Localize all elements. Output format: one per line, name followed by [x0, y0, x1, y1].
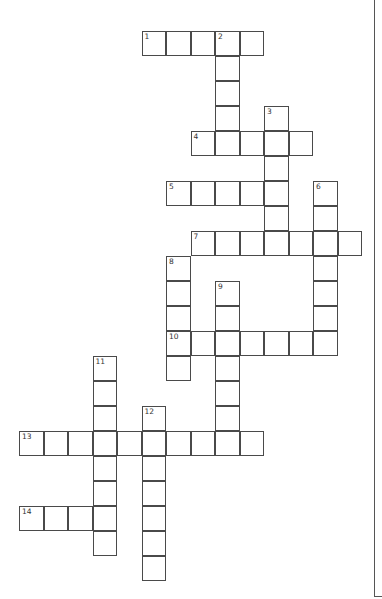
crossword-cell[interactable]: 9 — [215, 281, 240, 306]
crossword-cell[interactable]: 1 — [142, 31, 167, 56]
crossword-cell[interactable]: 7 — [191, 231, 216, 256]
clue-number: 1 — [145, 32, 150, 41]
crossword-cell[interactable] — [240, 231, 265, 256]
clue-number: 9 — [218, 282, 223, 291]
crossword-cell[interactable]: 6 — [313, 181, 338, 206]
crossword-cell[interactable] — [240, 181, 265, 206]
crossword-cell[interactable] — [215, 231, 240, 256]
crossword-cell[interactable] — [142, 531, 167, 556]
crossword-cell[interactable] — [93, 406, 118, 431]
crossword-cell[interactable] — [215, 381, 240, 406]
crossword-cell[interactable] — [215, 406, 240, 431]
clue-number: 13 — [22, 432, 32, 441]
clue-number: 6 — [316, 182, 321, 191]
crossword-cell[interactable] — [289, 131, 314, 156]
crossword-cell[interactable] — [44, 431, 69, 456]
crossword-cell[interactable] — [215, 331, 240, 356]
clue-number: 11 — [96, 357, 106, 366]
crossword-cell[interactable] — [117, 431, 142, 456]
crossword-cell[interactable] — [93, 381, 118, 406]
crossword-cell[interactable] — [166, 356, 191, 381]
crossword-cell[interactable]: 5 — [166, 181, 191, 206]
crossword-cell[interactable] — [240, 331, 265, 356]
clue-number: 2 — [218, 32, 223, 41]
panel-border — [374, 0, 375, 597]
crossword-cell[interactable] — [215, 431, 240, 456]
crossword-cell[interactable]: 8 — [166, 256, 191, 281]
clue-number: 12 — [145, 407, 155, 416]
clue-number: 5 — [169, 182, 174, 191]
crossword-cell[interactable] — [240, 31, 265, 56]
clue-number: 10 — [169, 332, 179, 341]
crossword-cell[interactable] — [313, 306, 338, 331]
crossword-cell[interactable] — [166, 431, 191, 456]
crossword-cell[interactable]: 13 — [19, 431, 44, 456]
crossword-cell[interactable] — [68, 506, 93, 531]
crossword-cell[interactable] — [313, 331, 338, 356]
crossword-cell[interactable] — [191, 31, 216, 56]
crossword-cell[interactable] — [68, 431, 93, 456]
crossword-cell[interactable] — [142, 481, 167, 506]
crossword-cell[interactable] — [44, 506, 69, 531]
crossword-cell[interactable] — [264, 131, 289, 156]
crossword-cell[interactable] — [264, 156, 289, 181]
clue-number: 8 — [169, 257, 174, 266]
crossword-cell[interactable] — [191, 181, 216, 206]
crossword-cell[interactable] — [142, 556, 167, 581]
crossword-cell[interactable] — [142, 506, 167, 531]
crossword-cell[interactable] — [264, 206, 289, 231]
crossword-cell[interactable]: 2 — [215, 31, 240, 56]
crossword-cell[interactable] — [93, 506, 118, 531]
crossword-cell[interactable] — [215, 356, 240, 381]
crossword-cell[interactable]: 10 — [166, 331, 191, 356]
crossword-cell[interactable] — [215, 131, 240, 156]
crossword-cell[interactable] — [142, 456, 167, 481]
crossword-cell[interactable] — [313, 256, 338, 281]
crossword-cell[interactable]: 11 — [93, 356, 118, 381]
crossword-cell[interactable] — [313, 231, 338, 256]
crossword-cell[interactable] — [264, 231, 289, 256]
panel-border-corner — [374, 596, 382, 597]
crossword-cell[interactable] — [264, 331, 289, 356]
crossword-cell[interactable] — [93, 431, 118, 456]
crossword-cell[interactable] — [289, 331, 314, 356]
clue-number: 4 — [194, 132, 199, 141]
crossword-cell[interactable] — [338, 231, 363, 256]
crossword-cell[interactable]: 3 — [264, 106, 289, 131]
crossword-cell[interactable] — [240, 131, 265, 156]
crossword-cell[interactable] — [215, 306, 240, 331]
crossword-cell[interactable] — [289, 231, 314, 256]
crossword-cell[interactable]: 14 — [19, 506, 44, 531]
crossword-board: 1234567810911121314 — [0, 0, 382, 599]
crossword-cell[interactable] — [93, 456, 118, 481]
crossword-cell[interactable] — [93, 481, 118, 506]
crossword-cell[interactable]: 12 — [142, 406, 167, 431]
crossword-cell[interactable] — [313, 206, 338, 231]
crossword-cell[interactable] — [215, 106, 240, 131]
crossword-cell[interactable] — [191, 331, 216, 356]
crossword-cell[interactable] — [240, 431, 265, 456]
crossword-cell[interactable] — [215, 56, 240, 81]
crossword-cell[interactable] — [264, 181, 289, 206]
crossword-cell[interactable] — [166, 31, 191, 56]
clue-number: 7 — [194, 232, 199, 241]
crossword-cell[interactable] — [142, 431, 167, 456]
clue-number: 3 — [267, 107, 272, 116]
crossword-cell[interactable] — [215, 181, 240, 206]
clue-number: 14 — [22, 507, 32, 516]
crossword-cell[interactable] — [215, 81, 240, 106]
crossword-cell[interactable] — [191, 431, 216, 456]
crossword-cell[interactable] — [166, 281, 191, 306]
crossword-cell[interactable]: 4 — [191, 131, 216, 156]
crossword-cell[interactable] — [313, 281, 338, 306]
crossword-cell[interactable] — [166, 306, 191, 331]
crossword-cell[interactable] — [93, 531, 118, 556]
